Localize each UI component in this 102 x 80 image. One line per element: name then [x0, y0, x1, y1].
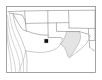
shaded-state-region	[60, 32, 80, 58]
boundary-louisiana-south	[90, 47, 95, 51]
boundary-segment-panhandle	[56, 23, 79, 32]
contour-baja-inner	[19, 51, 26, 71]
map-canvas	[0, 0, 102, 80]
map-border	[7, 7, 96, 73]
boundary-segment-north-interior	[8, 10, 95, 11]
coastline-pacific	[13, 14, 27, 71]
contour-offshore-1	[10, 13, 24, 71]
boundary-california-nevada-diagonal	[13, 14, 26, 32]
boundary-segment-great-basin	[9, 13, 26, 25]
locator-map-figure: Southwestern United States locator map S…	[0, 0, 102, 80]
boundary-new-mexico-south	[48, 37, 62, 38]
boundary-arizona-south	[26, 31, 48, 35]
contour-offshore-4	[7, 34, 12, 71]
study-site-marker[interactable]	[44, 39, 48, 43]
